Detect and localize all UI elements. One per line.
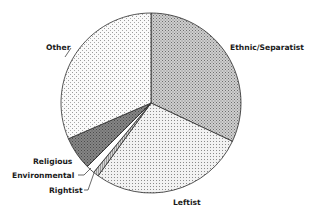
leader-line-environmental (78, 168, 91, 175)
label-rightist: Rightist (49, 186, 83, 195)
label-religious: Religious (33, 157, 73, 166)
label-ethnic-separatist: Ethnic/Separatist (230, 43, 304, 52)
pie-slices (61, 13, 241, 193)
label-environmental: Environmental (12, 171, 74, 180)
label-other: Other (46, 43, 71, 52)
leader-line-rightist (84, 173, 94, 190)
label-leftist: Leftist (173, 198, 201, 207)
pie-chart: Ethnic/SeparatistLeftistRightistEnvironm… (0, 0, 327, 217)
